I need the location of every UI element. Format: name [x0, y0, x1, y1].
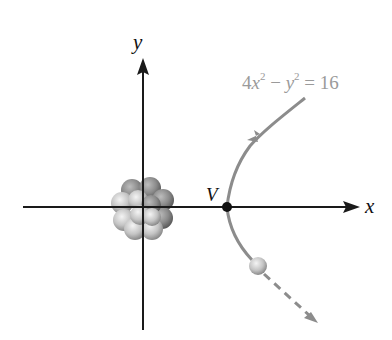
alpha-particle-icon	[249, 257, 267, 275]
hyperbola-equation: 4x2 − y2 = 16	[242, 70, 339, 94]
equation-var-x: x	[252, 72, 260, 93]
x-axis	[23, 201, 360, 213]
equation-coefficient: 4	[242, 72, 252, 93]
equation-rhs: = 16	[300, 72, 339, 93]
diagram-canvas: y x V 4x2 − y2 = 16	[0, 0, 392, 340]
y-axis-label: y	[133, 30, 142, 55]
x-axis-label: x	[365, 194, 374, 219]
vertex-label: V	[206, 184, 218, 206]
vertex-dot	[222, 202, 232, 212]
diagram-svg	[0, 0, 392, 340]
equation-var-y: y	[286, 72, 294, 93]
equation-minus: −	[265, 72, 285, 93]
hyperbola-path	[227, 98, 318, 323]
